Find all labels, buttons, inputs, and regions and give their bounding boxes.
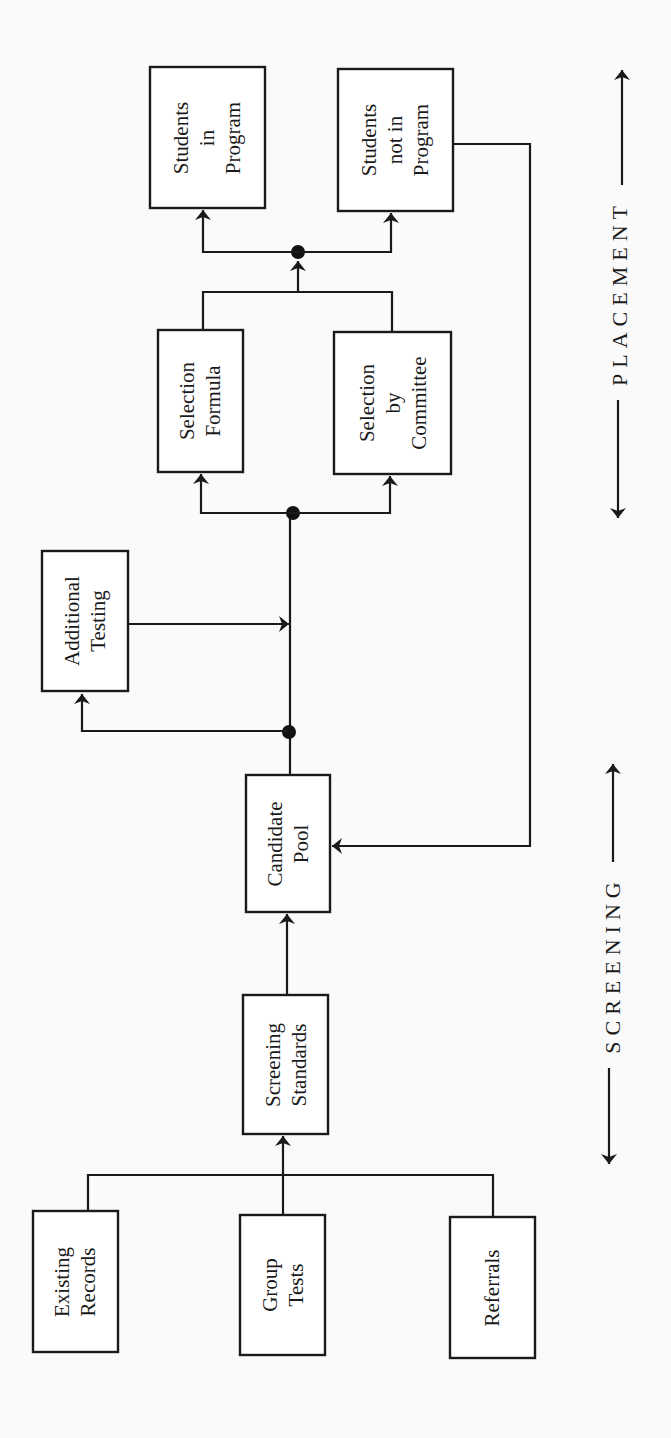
label-line: Pool	[288, 801, 314, 886]
connector-inputs-to-screening	[88, 1136, 493, 1217]
label-selection-formula: Selection Formula	[158, 330, 243, 472]
label-line: Formula	[201, 362, 227, 440]
label-line: Committee	[405, 356, 431, 449]
label-line: Existing	[49, 1246, 75, 1316]
label-line: by	[379, 356, 405, 449]
label-line: Referrals	[480, 1249, 506, 1326]
label-line: in	[195, 101, 221, 173]
label-line: Program	[221, 101, 247, 173]
screening-phase-label: SCREENING	[600, 845, 626, 1085]
label-additional-testing: Additional Testing	[42, 551, 128, 691]
label-referrals: Referrals	[450, 1217, 535, 1358]
label-line: Standards	[285, 1023, 311, 1107]
label-line: Records	[75, 1246, 101, 1316]
label-line: Selection	[175, 362, 201, 440]
label-line: Selection	[353, 356, 379, 449]
label-candidate-pool: Candidate Pool	[246, 775, 330, 912]
label-screening-standards: Screening Standards	[243, 995, 328, 1134]
label-selection-by-committee: Selection by Committee	[334, 332, 451, 474]
placement-phase-label: PLACEMENT	[607, 173, 633, 413]
label-line: Testing	[85, 576, 111, 666]
connector-split-to-selection	[201, 474, 390, 520]
label-line: Group	[256, 1258, 282, 1312]
connector-selection-merge	[203, 210, 392, 332]
label-line: not in	[383, 104, 409, 176]
label-line: Program	[409, 104, 435, 176]
label-existing-records: Existing Records	[33, 1211, 118, 1352]
label-line: Candidate	[262, 801, 288, 886]
connector-feedback-loop	[332, 144, 530, 846]
label-line: Additional	[59, 576, 85, 666]
label-line: Students	[357, 104, 383, 176]
label-line: Tests	[282, 1258, 308, 1312]
label-students-not-in-program: Students not in Program	[338, 69, 453, 211]
label-line: Screening	[259, 1023, 285, 1107]
label-line: Students	[169, 101, 195, 173]
label-students-in-program: Students in Program	[150, 67, 265, 208]
label-group-tests: Group Tests	[240, 1215, 325, 1355]
